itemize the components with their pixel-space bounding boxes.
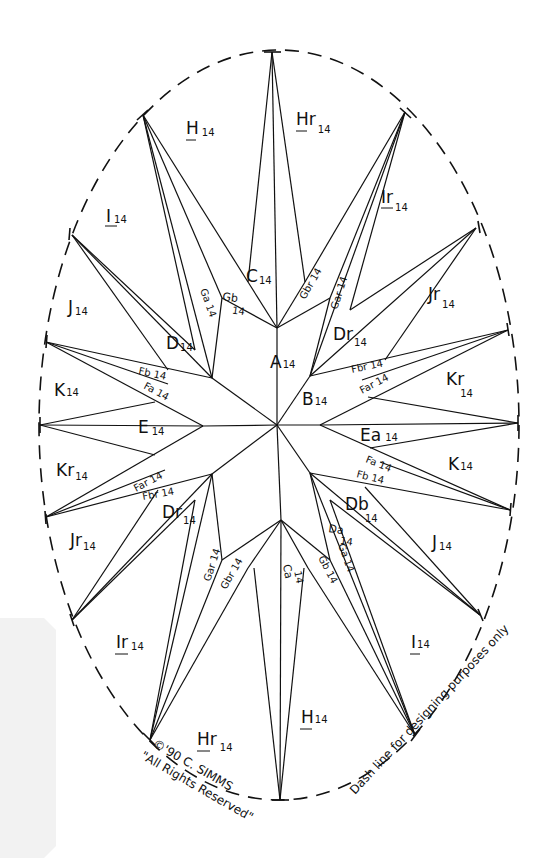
label-Ea: Ea14: [360, 425, 398, 445]
label-K-right: K14: [448, 454, 473, 474]
label-Hr-bottom: Hr14: [197, 729, 233, 753]
label-Fb-right: Fb 14: [356, 468, 386, 485]
label-Jr-right: Jr14: [427, 284, 455, 310]
label-Gb-top: Gb14: [220, 290, 247, 317]
label-B: B14: [302, 389, 327, 409]
label-Gbr-bottom: Gbr 14: [218, 556, 245, 591]
label-I-bottom: I14: [411, 632, 430, 652]
label-Gbr-top: Gbr 14: [297, 266, 324, 301]
label-Gb-bottom: Gb 14: [316, 554, 340, 586]
label-H-bottom: H14: [301, 707, 328, 727]
label-Dr-upper: Dr14: [333, 324, 367, 348]
label-Jr-left: Jr14: [69, 530, 96, 552]
label-Db: Db14: [345, 494, 378, 524]
label-K-left: K14: [54, 380, 79, 400]
label-H-top: H14: [186, 118, 215, 138]
compass-diagram: H14 Hr14 I14 Ir14 C14 J14 Jr14 Gb14 Ga 1…: [0, 0, 555, 867]
label-Gar-bottom: Gar 14: [201, 547, 222, 583]
label-C: C14: [246, 266, 272, 286]
label-Ir-top: Ir14: [381, 187, 408, 213]
label-Kr-right: Kr14: [446, 369, 473, 399]
label-Dr-lower: Dr14: [162, 502, 196, 526]
label-Ca: Ca14: [280, 562, 305, 587]
label-J-left: J14: [67, 297, 88, 317]
label-J-right: J14: [431, 532, 452, 552]
label-Kr-left: Kr14: [56, 460, 88, 482]
label-A: A14: [270, 352, 295, 372]
label-I-top: I14: [106, 206, 127, 226]
label-Ir-bottom: Ir14: [116, 632, 144, 652]
label-E: E14: [138, 417, 164, 437]
label-Ga-top: Ga 14: [198, 287, 219, 319]
label-Fbr-right: Fbr 14: [350, 358, 384, 375]
label-Ga-bottom: Ga 14: [336, 542, 357, 574]
